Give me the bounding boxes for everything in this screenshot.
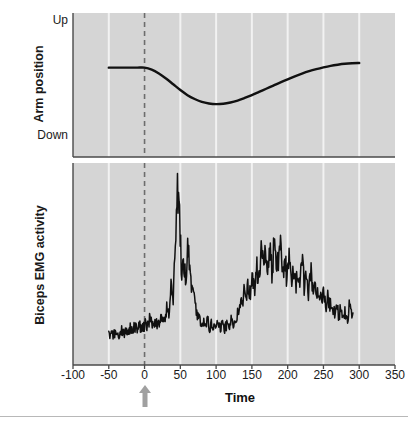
x-tick-label: -100: [61, 368, 85, 382]
x-tick-label: 50: [174, 368, 187, 382]
y-tick-label-up: Up: [14, 13, 68, 27]
x-tick-label: 300: [349, 368, 369, 382]
y-tick-label-down: Down: [8, 128, 68, 142]
x-tick-label: 350: [385, 368, 405, 382]
x-tick-label: -50: [100, 368, 117, 382]
x-tick-label: 100: [206, 368, 226, 382]
plot-canvas: [0, 0, 408, 431]
x-tick-label: 250: [313, 368, 333, 382]
x-axis-label: Time: [185, 390, 295, 405]
x-tick-label: 0: [141, 368, 148, 382]
x-tick-label: 150: [242, 368, 262, 382]
stimulus-arrow-icon: [138, 385, 152, 407]
figure-bottom-rule: [0, 416, 408, 417]
arm-position-panel-background: [73, 13, 395, 157]
x-tick-label: 200: [278, 368, 298, 382]
x-axis-tick-labels: -100-50050100150200250300350: [0, 368, 408, 386]
biceps-emg-axis-label: Biceps EMG activity: [32, 178, 48, 353]
figure-container: Arm position Biceps EMG activity Up Down…: [0, 0, 408, 431]
